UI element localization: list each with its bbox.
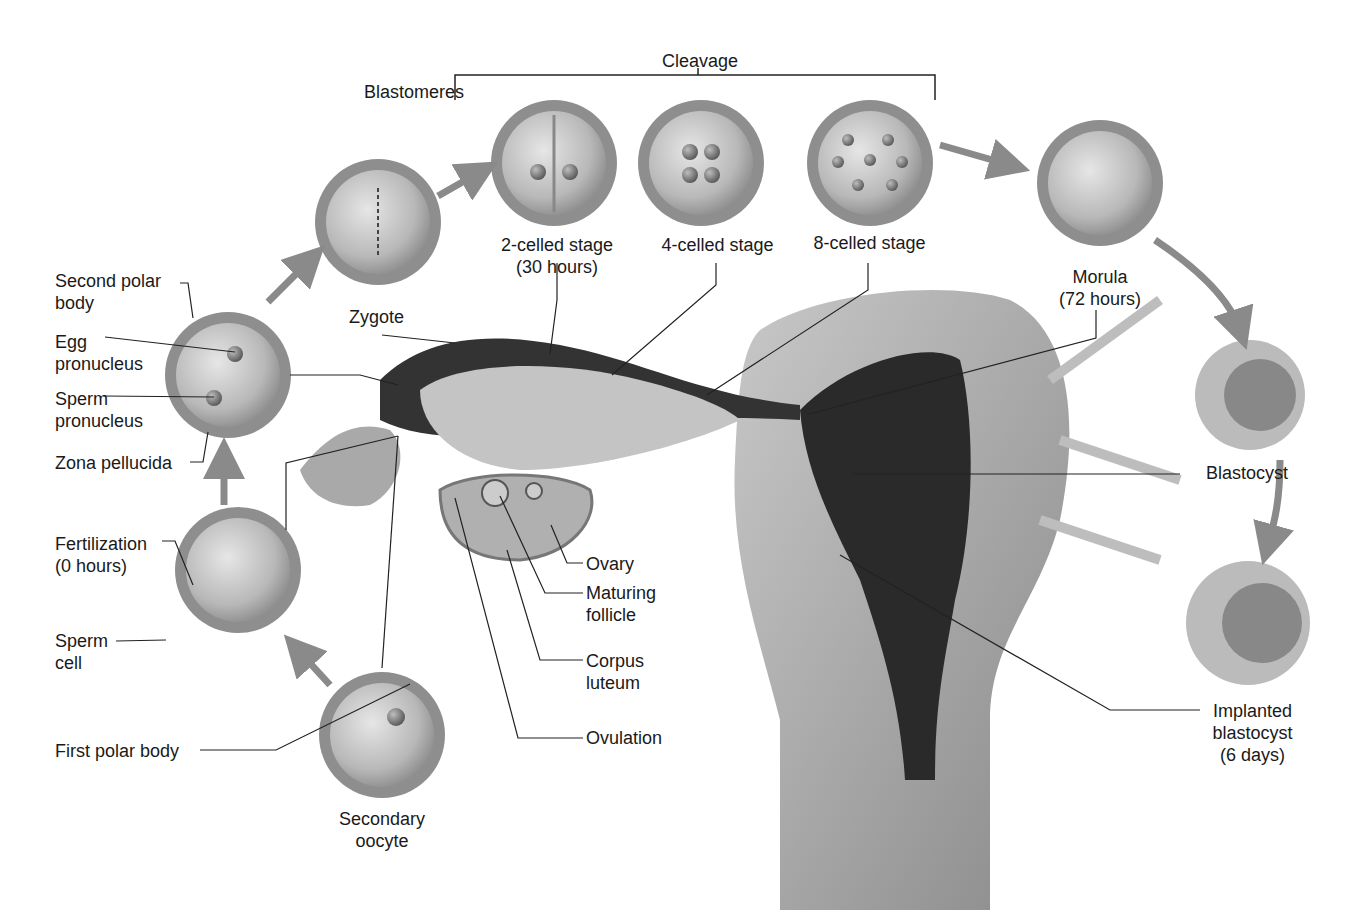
label-first-polar-body: First polar body [55, 740, 179, 762]
uterus [734, 290, 1180, 910]
zygote-pronuclei-cell [165, 312, 291, 438]
label-implanted-blastocyst: Implanted blastocyst (6 days) [1195, 700, 1310, 766]
label-corpus-luteum: Corpus luteum [586, 650, 644, 694]
label-sperm-cell: Sperm cell [55, 630, 108, 674]
label-fertilization: Fertilization (0 hours) [55, 533, 147, 577]
eight-cell-embryo [807, 100, 933, 226]
label-egg-pronucleus: Egg pronucleus [55, 331, 143, 375]
label-two-celled-stage: 2-celled stage (30 hours) [482, 234, 632, 278]
two-cell-embryo [491, 100, 617, 226]
label-morula: Morula (72 hours) [1040, 266, 1160, 310]
zygote-cell [315, 159, 441, 285]
label-eight-celled-stage: 8-celled stage [797, 232, 942, 254]
label-second-polar-body: Second polar body [55, 270, 161, 314]
label-four-celled-stage: 4-celled stage [645, 234, 790, 256]
ovary [440, 475, 592, 560]
cleavage-bracket [455, 68, 935, 100]
label-ovary: Ovary [586, 553, 634, 575]
secondary-oocyte-cell [319, 672, 445, 798]
label-cleavage: Cleavage [640, 50, 760, 72]
label-blastocyst: Blastocyst [1206, 462, 1288, 484]
fertilization-cell [175, 507, 301, 633]
morula [1037, 120, 1163, 246]
label-sperm-pronucleus: Sperm pronucleus [55, 388, 143, 432]
label-zygote: Zygote [349, 306, 404, 328]
label-zona-pellucida: Zona pellucida [55, 452, 172, 474]
label-ovulation: Ovulation [586, 727, 662, 749]
fertilization-diagram [0, 0, 1359, 924]
label-blastomeres: Blastomeres [364, 81, 464, 103]
implanted-blastocyst [1186, 561, 1310, 685]
blastocyst [1195, 340, 1305, 450]
four-cell-embryo [638, 100, 764, 226]
label-secondary-oocyte: Secondary oocyte [322, 808, 442, 852]
label-maturing-follicle: Maturing follicle [586, 582, 656, 626]
